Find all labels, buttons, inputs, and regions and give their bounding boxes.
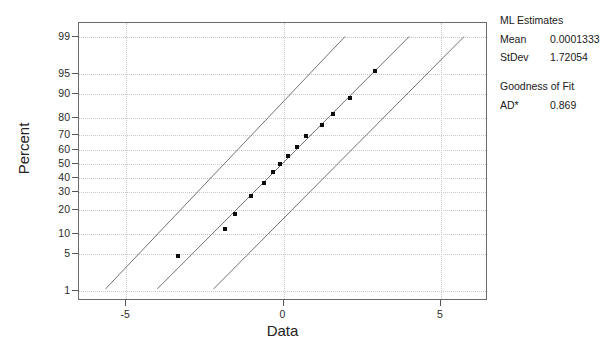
goodness-of-fit-row-key: AD* <box>500 99 550 111</box>
ml-estimates-header: ML Estimates <box>500 14 613 26</box>
y-tick-label: 1 <box>44 285 70 296</box>
ml-estimate-row: StDev1.72054 <box>500 51 613 63</box>
data-point <box>278 162 282 166</box>
data-point <box>262 181 266 185</box>
x-tick-label: 0 <box>263 309 303 320</box>
data-point <box>331 112 335 116</box>
ml-estimate-row-key: StDev <box>500 51 550 63</box>
ml-estimate-row: Mean0.0001333 <box>500 33 613 45</box>
ml-fit-line <box>157 37 409 289</box>
y-tick-label: 80 <box>44 112 70 123</box>
x-tick-mark <box>125 300 126 306</box>
confidence-band-line <box>106 37 346 289</box>
y-tick-label: 30 <box>44 186 70 197</box>
data-point <box>286 154 290 158</box>
goodness-of-fit-row-value: 0.869 <box>550 99 576 111</box>
y-tick-label: 70 <box>44 129 70 140</box>
x-axis-title: Data <box>78 322 487 339</box>
ml-estimate-row-key: Mean <box>500 33 550 45</box>
data-point <box>295 145 299 149</box>
y-tick-label: 99 <box>44 31 70 42</box>
y-tick-label: 60 <box>44 144 70 155</box>
data-point <box>304 134 308 138</box>
ml-estimate-row-value: 1.72054 <box>550 51 588 63</box>
data-point <box>249 194 253 198</box>
x-tick-label: -5 <box>105 309 145 320</box>
y-tick-label: 20 <box>44 204 70 215</box>
probability-plot-figure: Percent 151020304050607080909599 -505 Da… <box>0 0 613 353</box>
y-tick-label: 50 <box>44 158 70 169</box>
data-point <box>271 170 275 174</box>
x-tick-mark <box>440 300 441 306</box>
data-point <box>223 227 227 231</box>
confidence-band-line <box>214 37 464 289</box>
y-tick-label: 5 <box>44 248 70 259</box>
data-point <box>348 96 352 100</box>
data-point <box>233 212 237 216</box>
y-tick-label: 90 <box>44 88 70 99</box>
ml-estimate-row-value: 0.0001333 <box>550 33 600 45</box>
plot-area <box>78 22 487 300</box>
y-tick-label: 40 <box>44 172 70 183</box>
y-axis-title: Percent <box>15 99 32 199</box>
x-tick-mark <box>283 300 284 306</box>
statistics-legend: ML Estimates Mean0.0001333StDev1.72054 G… <box>500 14 613 117</box>
y-tick-label: 95 <box>44 68 70 79</box>
goodness-of-fit-row: AD*0.869 <box>500 99 613 111</box>
legend-spacer <box>500 69 613 80</box>
data-point <box>373 69 377 73</box>
y-tick-label: 10 <box>44 228 70 239</box>
fit-and-confidence-lines <box>79 23 486 299</box>
data-point <box>320 123 324 127</box>
data-point <box>176 254 180 258</box>
x-tick-label: 5 <box>420 309 460 320</box>
ml-estimates-rows: Mean0.0001333StDev1.72054 <box>500 33 613 63</box>
goodness-of-fit-rows: AD*0.869 <box>500 99 613 111</box>
goodness-of-fit-header: Goodness of Fit <box>500 80 613 92</box>
